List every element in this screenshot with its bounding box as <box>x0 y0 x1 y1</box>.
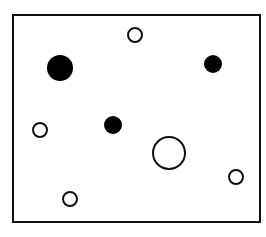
diagram-canvas <box>0 0 266 237</box>
open-circle-small-open-bottom <box>63 192 77 206</box>
particle-diagram <box>0 0 266 237</box>
open-circle-small-open-bottom-right <box>229 170 243 184</box>
circles-group <box>33 28 243 206</box>
open-circle-small-open-left <box>33 123 47 137</box>
open-circle-large-open <box>153 137 185 169</box>
filled-circle-medium-filled-center <box>104 116 122 134</box>
filled-circle-large-filled <box>47 55 73 81</box>
frame-border <box>13 15 260 222</box>
open-circle-small-open-top <box>128 28 142 42</box>
filled-circle-medium-filled-right <box>204 55 222 73</box>
